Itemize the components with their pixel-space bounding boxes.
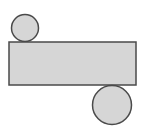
center-rectangle [9,42,136,85]
figure-canvas [0,0,143,136]
geometric-figure [0,0,143,136]
top-left-circle [12,15,39,42]
bottom-right-circle [93,86,132,125]
